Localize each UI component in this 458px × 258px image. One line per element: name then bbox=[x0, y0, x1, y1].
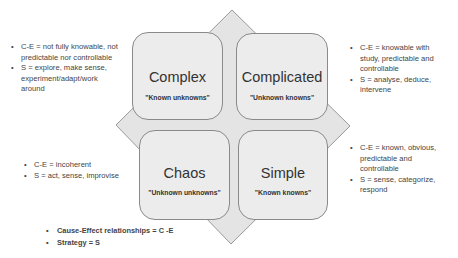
note-text: S = act, sense, improvise bbox=[34, 171, 119, 180]
quadrant-title: Chaos bbox=[140, 165, 229, 181]
bullet-icon: • bbox=[46, 225, 49, 237]
note-item: • S = analyse, deduce, intervene bbox=[350, 75, 450, 96]
background-diamond bbox=[0, 0, 458, 258]
quadrant-title: Complicated bbox=[237, 69, 327, 85]
note-text: C-E = incoherent bbox=[34, 160, 91, 169]
note-item: • C-E = knowable with study, predictable… bbox=[350, 43, 450, 75]
note-item: • S = sense, categorize, respond bbox=[350, 175, 450, 196]
note-item: • S = explore, make sense, experiment/ad… bbox=[11, 63, 129, 95]
bullet-icon: • bbox=[350, 75, 353, 86]
note-item: • C-E = not fully knowable, not predicta… bbox=[11, 42, 129, 63]
bullet-icon: • bbox=[11, 42, 14, 53]
note-text: C-E = knowable with study, predictable a… bbox=[360, 43, 434, 73]
bullet-icon: • bbox=[350, 43, 353, 54]
quadrant-chaos: Chaos "Unknown unknowns" bbox=[139, 130, 230, 220]
note-text: S = explore, make sense, experiment/adap… bbox=[21, 63, 113, 95]
bullet-icon: • bbox=[350, 143, 353, 154]
legend: • Cause-Effect relationships = C -E • St… bbox=[46, 225, 226, 248]
note-item: • C-E = known, obvious, predictable and … bbox=[350, 143, 450, 175]
quadrant-title: Simple bbox=[239, 165, 327, 181]
notes-complex: • C-E = not fully knowable, not predicta… bbox=[11, 42, 129, 95]
note-item: • S = act, sense, improvise bbox=[24, 171, 134, 182]
quadrant-subtitle: "Known knowns" bbox=[239, 189, 327, 196]
quadrant-simple: Simple "Known knowns" bbox=[238, 130, 328, 220]
note-text: S = sense, categorize, respond bbox=[360, 175, 435, 195]
bullet-icon: • bbox=[350, 175, 353, 186]
bullet-icon: • bbox=[11, 63, 14, 74]
note-item: • C-E = incoherent bbox=[24, 160, 134, 171]
legend-item: • Strategy = S bbox=[46, 237, 226, 249]
bullet-icon: • bbox=[24, 160, 27, 171]
quadrant-subtitle: "Unknown knowns" bbox=[237, 94, 327, 101]
note-text: S = analyse, deduce, intervene bbox=[360, 75, 431, 95]
note-text: C-E = not fully knowable, not predictabl… bbox=[21, 42, 118, 62]
bullet-icon: • bbox=[24, 171, 27, 182]
notes-simple: • C-E = known, obvious, predictable and … bbox=[350, 143, 450, 196]
notes-chaos: • C-E = incoherent • S = act, sense, imp… bbox=[24, 160, 134, 181]
quadrant-title: Complex bbox=[133, 69, 222, 85]
bullet-icon: • bbox=[46, 237, 49, 249]
notes-complicated: • C-E = knowable with study, predictable… bbox=[350, 43, 450, 96]
quadrant-complicated: Complicated "Unknown knowns" bbox=[236, 33, 328, 120]
note-text: C-E = known, obvious, predictable and co… bbox=[360, 143, 436, 173]
legend-text: Cause-Effect relationships = C -E bbox=[57, 226, 173, 235]
legend-item: • Cause-Effect relationships = C -E bbox=[46, 225, 226, 237]
quadrant-subtitle: "Unknown unknowns" bbox=[140, 189, 229, 196]
quadrant-complex: Complex "Known unknowns" bbox=[132, 32, 223, 120]
legend-text: Strategy = S bbox=[57, 238, 100, 247]
quadrant-subtitle: "Known unknowns" bbox=[133, 94, 222, 101]
